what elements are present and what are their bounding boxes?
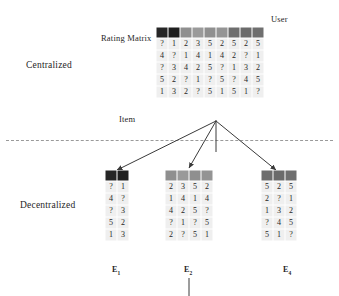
decentralized-matrix-cell: ?: [273, 193, 285, 205]
decentralized-matrix-row: 4?: [105, 193, 129, 205]
decentralized-matrix-cell: 2: [117, 217, 129, 229]
decentralized-matrix-cell: 4: [105, 193, 117, 205]
decentralized-matrix-cell: 3: [273, 205, 285, 217]
matrix-label-subscript: 1: [118, 270, 121, 276]
decentralized-matrix-row: 2?1: [261, 193, 297, 205]
decentralized-matrix-cell: 5: [285, 181, 297, 193]
decentralized-matrix-cell: ?: [105, 205, 117, 217]
decentralized-matrix-cell: 2: [273, 181, 285, 193]
decentralized-matrix-cell: ?: [105, 181, 117, 193]
decentralized-matrix-header-cell: [189, 170, 201, 181]
decentralized-matrix-e4: 5252?1132?4551?: [261, 170, 297, 241]
arrow-to-e1: [117, 121, 216, 170]
decentralized-matrix-header-cell: [165, 170, 177, 181]
decentralized-matrix-cell: ?: [189, 217, 201, 229]
figure-canvas: Centralized Decentralized Rating Matrix …: [0, 0, 339, 296]
decentralized-matrix-row: 525: [261, 181, 297, 193]
decentralized-matrix-row: 2?51: [165, 229, 213, 241]
decentralized-matrix-cell: 3: [117, 205, 129, 217]
decentralized-matrix-cell: 1: [201, 229, 213, 241]
decentralized-matrix-cell: 5: [189, 205, 201, 217]
decentralized-matrix-cell: 1: [177, 217, 189, 229]
decentralized-matrix-row: 425?: [165, 205, 213, 217]
decentralized-matrix-cell: 1: [105, 229, 117, 241]
decentralized-matrix-header-row: [105, 170, 129, 181]
decentralized-matrix-cell: 5: [285, 217, 297, 229]
decentralized-matrix-cell: 5: [189, 181, 201, 193]
decentralized-matrix-e1: ?14??35213: [105, 170, 129, 241]
decentralized-matrix-row: 1414: [165, 193, 213, 205]
decentralized-matrix-cell: 1: [273, 229, 285, 241]
decentralized-matrix-cell: 1: [165, 193, 177, 205]
decentralized-matrix-cell: 5: [261, 229, 273, 241]
decentralized-matrix-cell: 2: [165, 229, 177, 241]
decentralized-matrix-cell: ?: [261, 217, 273, 229]
decentralized-matrix-row: ?1: [105, 181, 129, 193]
matrix-label-subscript: 4: [289, 270, 292, 276]
decentralized-matrix-cell: 1: [117, 181, 129, 193]
decentralized-matrix-header-row: [261, 170, 297, 181]
matrix-label-e4: E4: [283, 265, 292, 276]
decentralized-matrix-cell: ?: [285, 229, 297, 241]
decentralized-matrix-cell: 1: [285, 193, 297, 205]
decentralized-matrix-cell: ?: [201, 205, 213, 217]
decentralized-matrix-header-cell: [273, 170, 285, 181]
decentralized-matrix-header-cell: [261, 170, 273, 181]
decentralized-matrix-row: 2352: [165, 181, 213, 193]
decentralized-matrix-header-cell: [201, 170, 213, 181]
decentralized-matrix-cell: 4: [177, 193, 189, 205]
decentralized-matrix-e2: 23521414425??1?52?51: [165, 170, 213, 241]
arrow-to-e4: [216, 121, 276, 170]
matrix-label-subscript: 2: [190, 270, 193, 276]
decentralized-matrix-cell: 3: [177, 181, 189, 193]
matrix-label-e1: E1: [112, 265, 121, 276]
decentralized-matrix-cell: 2: [285, 205, 297, 217]
decentralized-matrix-header-cell: [285, 170, 297, 181]
decentralized-matrix-cell: 2: [177, 205, 189, 217]
decentralized-matrix-row: 13: [105, 229, 129, 241]
arrow-layer: [0, 0, 339, 296]
matrix-label-e2: E2: [184, 265, 193, 276]
decentralized-matrix-cell: 4: [273, 217, 285, 229]
decentralized-matrix-cell: 5: [201, 217, 213, 229]
decentralized-matrix-row: 132: [261, 205, 297, 217]
decentralized-matrix-cell: ?: [117, 193, 129, 205]
decentralized-matrix-cell: 1: [261, 205, 273, 217]
decentralized-matrix-cell: 3: [117, 229, 129, 241]
decentralized-matrix-header-cell: [105, 170, 117, 181]
decentralized-matrix-cell: 4: [165, 205, 177, 217]
decentralized-matrix-cell: 2: [165, 181, 177, 193]
decentralized-matrix-cell: 2: [201, 181, 213, 193]
decentralized-matrix-row: 51?: [261, 229, 297, 241]
decentralized-matrix-row: ?1?5: [165, 217, 213, 229]
decentralized-matrix-header-cell: [177, 170, 189, 181]
decentralized-matrix-row: 52: [105, 217, 129, 229]
decentralized-matrix-cell: 2: [261, 193, 273, 205]
decentralized-matrix-row: ?3: [105, 205, 129, 217]
decentralized-matrix-cell: 5: [261, 181, 273, 193]
decentralized-matrix-cell: 5: [105, 217, 117, 229]
decentralized-matrix-cell: ?: [165, 217, 177, 229]
decentralized-matrix-cell: 5: [189, 229, 201, 241]
decentralized-matrix-cell: 4: [201, 193, 213, 205]
decentralized-matrix-row: ?45: [261, 217, 297, 229]
decentralized-matrix-header-row: [165, 170, 213, 181]
decentralized-matrix-cell: ?: [177, 229, 189, 241]
decentralized-matrix-cell: 1: [189, 193, 201, 205]
decentralized-matrix-header-cell: [117, 170, 129, 181]
